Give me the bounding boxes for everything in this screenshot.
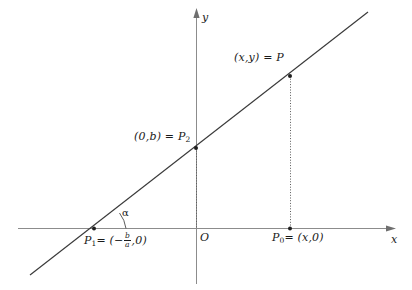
point-label-P1-equals: = (− xyxy=(96,234,123,247)
origin-label: O xyxy=(200,232,209,243)
point-label-P2-subscript: 2 xyxy=(186,135,191,144)
x-axis-arrowhead xyxy=(386,225,396,231)
point-label-P2: (0,b) = P2 xyxy=(134,131,190,144)
point-label-P1-name: P xyxy=(84,234,92,247)
point-marker-P1 xyxy=(92,227,96,231)
y-axis-arrowhead xyxy=(193,8,199,18)
point-label-P1: P1= (−ba,0) xyxy=(84,232,147,248)
fraction-numerator: b xyxy=(124,232,131,240)
point-label-P0-name: P xyxy=(272,231,280,244)
linear-function-diagram: y x O (x,y) = P (0,b) = P2 P1= (−ba,0) P… xyxy=(0,0,412,290)
diagram-canvas xyxy=(0,0,412,290)
angle-label-alpha: α xyxy=(122,208,129,218)
point-label-P0: P0= (x,0) xyxy=(272,232,324,245)
x-axis-label: x xyxy=(391,234,397,245)
point-marker-P0 xyxy=(288,227,292,231)
point-label-P: (x,y) = P xyxy=(234,52,284,63)
fraction-denominator: a xyxy=(124,240,131,249)
point-marker-P xyxy=(288,74,292,78)
point-marker-P2 xyxy=(194,146,198,150)
point-label-P0-equals: = (x,0) xyxy=(284,231,323,244)
fraction-b-over-a: ba xyxy=(124,232,131,248)
point-label-P1-tail: ,0) xyxy=(131,234,146,247)
point-label-P2-text: (0,b) = P xyxy=(134,130,186,143)
y-axis-label: y xyxy=(202,12,208,23)
